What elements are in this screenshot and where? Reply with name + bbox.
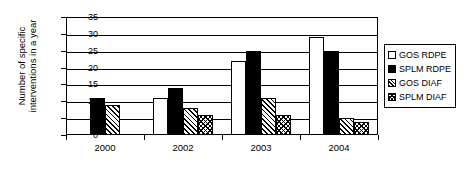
bar-chart: Number of specific interventions in a ye… <box>0 0 469 170</box>
legend-label: GOS DIAF <box>399 78 442 88</box>
legend-item[interactable]: SPLM DIAF <box>388 90 451 104</box>
legend-item[interactable]: SPLM RDPE <box>388 62 451 76</box>
x-tick-mark <box>66 135 67 140</box>
legend-item[interactable]: GOS DIAF <box>388 76 451 90</box>
x-tick-label: 2004 <box>309 142 369 153</box>
legend-item[interactable]: GOS RDPE <box>388 48 451 62</box>
x-tick-mark <box>222 135 223 140</box>
legend-label: GOS RDPE <box>399 50 447 60</box>
legend: GOS RDPESPLM RDPEGOS DIAFSPLM DIAF <box>384 44 456 108</box>
x-tick-label: 2000 <box>75 142 135 153</box>
bar <box>231 61 246 135</box>
bar <box>324 51 339 135</box>
x-tick-mark <box>144 135 145 140</box>
bar <box>246 51 261 135</box>
bar <box>309 37 324 135</box>
bar <box>198 115 213 135</box>
bar <box>261 98 276 135</box>
bar <box>339 118 354 135</box>
x-tick-label: 2002 <box>153 142 213 153</box>
bar <box>168 88 183 135</box>
bar <box>276 115 291 135</box>
bars-layer <box>66 17 378 135</box>
y-axis-title: Number of specific interventions in a ye… <box>16 1 38 131</box>
x-tick-mark <box>300 135 301 140</box>
bar <box>183 108 198 135</box>
bar-group <box>144 17 222 135</box>
x-tick-label: 2003 <box>231 142 291 153</box>
bar-group <box>222 17 300 135</box>
bar-group <box>300 17 378 135</box>
x-tick-mark <box>378 135 379 140</box>
bar <box>153 98 168 135</box>
legend-swatch-icon <box>388 65 396 73</box>
bar <box>354 122 369 135</box>
bar-group <box>66 17 144 135</box>
legend-swatch-icon <box>388 51 396 59</box>
legend-swatch-icon <box>388 93 396 101</box>
bar <box>105 105 120 135</box>
legend-swatch-icon <box>388 79 396 87</box>
legend-label: SPLM RDPE <box>399 64 451 74</box>
bar <box>90 98 105 135</box>
legend-label: SPLM DIAF <box>399 92 447 102</box>
